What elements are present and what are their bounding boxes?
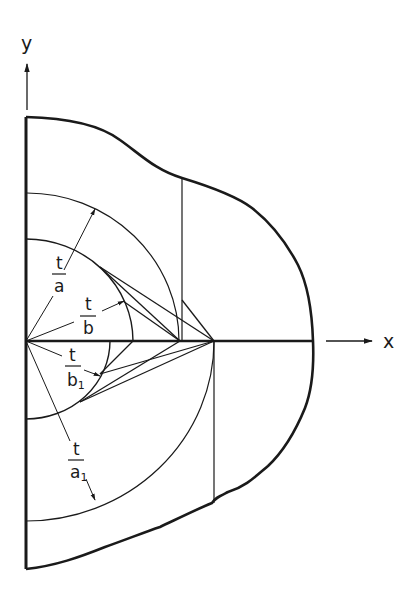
x-axis-label: x bbox=[383, 330, 394, 352]
t-b-denominator: b bbox=[83, 318, 94, 338]
t-a1-den-letter: a bbox=[70, 462, 80, 482]
label-t-over-b: t b bbox=[80, 294, 96, 338]
label-t-over-a1: t a1 bbox=[68, 439, 87, 484]
diagram-canvas: y x t a t b t b1 t a1 bbox=[0, 0, 419, 599]
t-b1-denominator: b1 bbox=[67, 370, 85, 392]
t-b1-den-letter: b bbox=[67, 370, 78, 390]
leader-t-b1-lower bbox=[84, 370, 100, 376]
leader-t-a-upper bbox=[64, 209, 95, 270]
t-a-numerator: t bbox=[56, 253, 63, 273]
leader-t-b-upper bbox=[102, 301, 124, 311]
t-b-numerator: t bbox=[85, 294, 92, 314]
t-a1-subscript: 1 bbox=[80, 471, 87, 484]
label-t-over-a: t a bbox=[52, 253, 66, 296]
leader-t-a-lower bbox=[26, 296, 53, 341]
upper-tangent-a1 bbox=[100, 267, 180, 341]
label-t-over-b1: t b1 bbox=[65, 345, 85, 392]
t-b1-subscript: 1 bbox=[78, 379, 85, 392]
outer-boundary bbox=[26, 117, 313, 569]
leader-t-a1-upper bbox=[26, 341, 70, 441]
t-b1-numerator: t bbox=[69, 345, 76, 365]
upper-tangent-b2 bbox=[182, 300, 214, 341]
y-axis-label: y bbox=[21, 32, 32, 54]
lower-tangent-2 bbox=[80, 341, 180, 402]
leader-t-b-lower bbox=[26, 322, 74, 341]
t-a-denominator: a bbox=[54, 276, 64, 296]
lower-tangent-3 bbox=[80, 341, 214, 402]
t-a1-denominator: a1 bbox=[70, 462, 87, 484]
upper-inner-arc bbox=[26, 239, 133, 341]
t-a1-numerator: t bbox=[73, 439, 80, 459]
